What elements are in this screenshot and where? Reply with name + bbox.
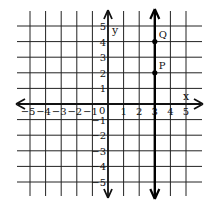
point-label: Q xyxy=(159,29,167,40)
origin-label: 0 xyxy=(99,105,105,116)
x-tick-label: 1 xyxy=(120,106,126,117)
coordinate-plane: −5−4−3−2−11234554321−1−2−3−4−5 QP x y 0 xyxy=(0,0,213,204)
x-tick-label: −3 xyxy=(52,106,67,117)
point-p xyxy=(152,70,157,75)
y-tick-label: 1 xyxy=(100,83,106,94)
y-tick-label: 2 xyxy=(100,68,106,79)
point-q xyxy=(152,39,157,44)
y-axis-label: y xyxy=(111,24,119,37)
x-tick-label: −2 xyxy=(67,106,82,117)
y-tick-label: −5 xyxy=(91,177,106,188)
y-tick-label: −4 xyxy=(91,161,106,172)
x-tick-label: −4 xyxy=(36,106,51,117)
x-tick-label: 5 xyxy=(183,106,189,117)
y-tick-label: −3 xyxy=(91,146,106,157)
y-tick-label: 3 xyxy=(100,52,106,63)
x-tick-label: 2 xyxy=(136,106,142,117)
x-tick-label: 4 xyxy=(167,106,173,117)
x-tick-label: −5 xyxy=(21,106,36,117)
x-axis-label: x xyxy=(183,90,190,103)
point-label: P xyxy=(159,60,166,71)
y-tick-label: −2 xyxy=(91,130,106,141)
axes xyxy=(16,10,203,198)
y-tick-label: 5 xyxy=(100,21,106,32)
y-tick-label: −1 xyxy=(91,115,106,126)
y-tick-label: 4 xyxy=(100,37,106,48)
